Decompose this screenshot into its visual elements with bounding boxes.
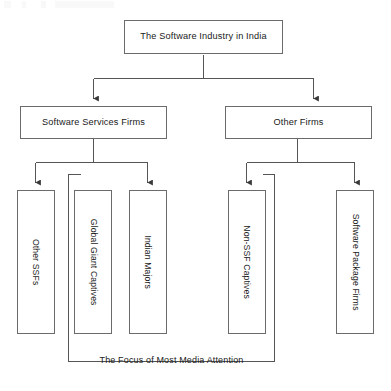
node-non-ssf-captives[interactable]: Non-SSF Captives (228, 190, 266, 334)
node-software-services-firms-label: Software Services Firms (42, 117, 145, 128)
node-other-ssfs-label: Other SSFs (31, 239, 41, 285)
node-indian-majors-label: Indian Majors (143, 235, 153, 289)
diagram-canvas: The Software Industry in India Software … (0, 0, 391, 391)
node-root[interactable]: The Software Industry in India (124, 20, 283, 54)
node-non-ssf-captives-label: Non-SSF Captives (242, 225, 252, 299)
media-attention-caption: The Focus of Most Media Attention (68, 355, 275, 365)
node-global-giant-captives[interactable]: Global Giant Captives (74, 190, 112, 334)
scan-artifact (4, 1, 114, 8)
node-software-package-firms-label: Software Package Firms (350, 214, 360, 311)
connector-layer (0, 0, 391, 391)
node-other-ssfs[interactable]: Other SSFs (17, 190, 55, 334)
node-indian-majors[interactable]: Indian Majors (129, 190, 167, 334)
node-root-label: The Software Industry in India (140, 31, 267, 42)
node-other-firms[interactable]: Other Firms (225, 106, 372, 139)
node-other-firms-label: Other Firms (273, 117, 323, 128)
node-global-giant-captives-label: Global Giant Captives (88, 219, 98, 306)
node-software-services-firms[interactable]: Software Services Firms (20, 106, 167, 139)
node-software-package-firms[interactable]: Software Package Firms (336, 190, 374, 334)
